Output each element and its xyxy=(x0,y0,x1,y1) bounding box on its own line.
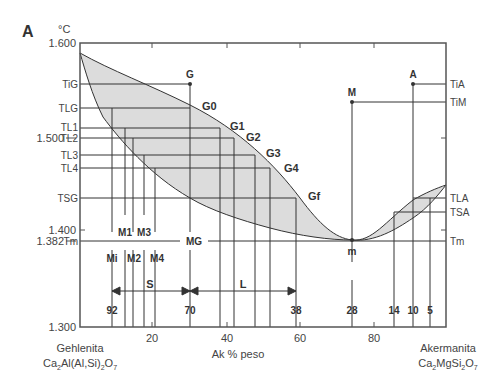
label-g2: G2 xyxy=(246,131,261,143)
range-arrows xyxy=(112,287,296,295)
x-tick-80: 80 xyxy=(368,332,380,344)
x-tick-40: 40 xyxy=(221,332,233,344)
label-g: G xyxy=(186,69,194,80)
label-g1: G1 xyxy=(230,120,245,132)
point-eutectic xyxy=(350,238,354,242)
label-tl3: TL3 xyxy=(61,150,79,161)
label-m: M xyxy=(348,87,356,98)
label-mg: MG xyxy=(186,236,202,247)
label-m3: M3 xyxy=(137,227,151,238)
label-eutectic-m: m xyxy=(348,246,357,257)
label-tl4: TL4 xyxy=(61,163,79,174)
panel-label: A xyxy=(22,23,34,40)
label-tm-right: Tm xyxy=(450,236,464,247)
label-tia: TiA xyxy=(450,79,465,90)
label-tsg: TSG xyxy=(57,193,78,204)
label-tm-left: Tm xyxy=(64,236,78,247)
comp-70: 70 xyxy=(184,305,196,316)
label-tig: TiG xyxy=(62,79,78,90)
label-g3: G3 xyxy=(266,147,281,159)
left-endmember-name: Gehlenita xyxy=(56,342,104,354)
label-a: A xyxy=(409,69,416,80)
comp-5: 5 xyxy=(427,305,433,316)
label-m2: M2 xyxy=(127,253,141,264)
comp-10: 10 xyxy=(407,305,419,316)
label-mi: Mi xyxy=(106,253,117,264)
comp-92: 92 xyxy=(106,305,118,316)
label-tim: TiM xyxy=(450,97,466,108)
comp-38: 38 xyxy=(290,305,302,316)
label-m4: M4 xyxy=(150,253,164,264)
label-g4: G4 xyxy=(284,162,300,174)
x-tick-20: 20 xyxy=(146,332,158,344)
x-axis-title: Ak % peso xyxy=(212,348,265,360)
label-tsa: TSA xyxy=(450,207,470,218)
y-tick-1382: 1.382 xyxy=(36,235,64,247)
x-tick-60: 60 xyxy=(294,332,306,344)
label-gf: Gf xyxy=(308,190,321,202)
point-m xyxy=(350,100,354,104)
left-endmember-formula: Ca2Al(Al,Si)2O7 xyxy=(43,357,117,371)
label-m1: M1 xyxy=(118,227,132,238)
label-tl2: TL2 xyxy=(61,133,79,144)
comp-14: 14 xyxy=(388,305,400,316)
phase-diagram: A °C 1.600 1.500 1.400 1.382 1.300 TiG T… xyxy=(0,0,492,388)
y-unit: °C xyxy=(58,23,70,35)
label-tlg: TLG xyxy=(59,103,79,114)
label-range-s: S xyxy=(146,278,153,290)
point-a xyxy=(411,82,415,86)
right-endmember-formula: Ca2MgSi2O7 xyxy=(418,357,478,371)
akermanite-field xyxy=(352,185,446,240)
comp-28: 28 xyxy=(346,305,358,316)
y-tick-1300: 1.300 xyxy=(48,321,76,333)
right-endmember-name: Akermanita xyxy=(420,342,477,354)
label-range-l: L xyxy=(240,278,247,290)
label-g0: G0 xyxy=(202,100,217,112)
y-tick-1600: 1.600 xyxy=(48,37,76,49)
label-tl1: TL1 xyxy=(61,122,79,133)
point-g xyxy=(188,82,192,86)
label-tla: TLA xyxy=(450,193,469,204)
